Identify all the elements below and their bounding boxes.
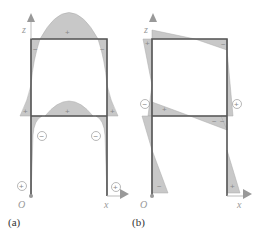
sign-mid-left: + <box>23 107 28 116</box>
diagram-canvas: z x O + + − − + + − − + + (a) <box>0 0 271 243</box>
sign-top-right-b: − <box>221 40 226 49</box>
x-axis-label-a: x <box>103 199 109 210</box>
panel-a: z x O + + − − + + − − + + (a) <box>8 13 129 230</box>
sign-left-circle-b: − <box>143 100 148 109</box>
moment-area-lower-left <box>31 116 42 196</box>
origin-point-b <box>150 194 154 198</box>
sign-right-circle-b: + <box>234 100 239 109</box>
origin-point-a <box>29 194 33 198</box>
frame-a <box>31 39 107 196</box>
sign-mid-beam: + <box>65 107 70 116</box>
panel-b: z x O + − − + + − − − + (b) <box>132 13 252 229</box>
sign-mid-right-b: − <box>220 117 225 126</box>
z-axis-label-a: z <box>21 24 26 35</box>
sign-top-left-b: + <box>145 39 150 48</box>
sign-mid-left-b: + <box>162 105 167 114</box>
moment-area-lower-right <box>96 116 107 196</box>
sign-base-right-b: + <box>230 182 235 191</box>
caption-b: (b) <box>132 216 145 229</box>
sign-mid-right: + <box>110 107 115 116</box>
moment-area-mid-beam-b <box>152 102 190 116</box>
sign-base-left-b: − <box>157 182 162 191</box>
origin-label-a: O <box>18 199 25 210</box>
x-axis-label-b: x <box>236 199 242 210</box>
sign-base-right: + <box>113 183 118 192</box>
moment-area-top-beam-b <box>152 30 195 39</box>
sign-top-beam: + <box>65 28 70 37</box>
sign-base-left: + <box>19 182 24 191</box>
sign-top-right: − <box>100 45 105 54</box>
origin-label-b: O <box>140 199 147 210</box>
x-axis-arrow-a <box>120 189 129 199</box>
x-axis-arrow-b <box>243 189 252 199</box>
moment-area-right-upper-b <box>227 39 233 116</box>
z-axis-arrow-b <box>149 13 157 22</box>
sign-mid-beam-right-b: − <box>212 117 217 126</box>
z-axis-arrow-a <box>27 13 35 22</box>
sign-lower-left: − <box>40 132 45 141</box>
sign-lower-right: − <box>94 132 99 141</box>
moment-area-left-lower-b <box>142 116 152 150</box>
z-axis-label-b: z <box>143 24 148 35</box>
caption-a: (a) <box>8 216 21 229</box>
sign-top-left: − <box>33 45 38 54</box>
